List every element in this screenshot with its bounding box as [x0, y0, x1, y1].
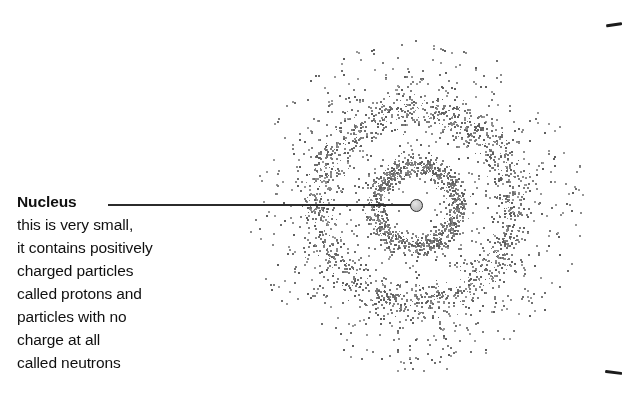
callout-line-5: particles with no	[17, 305, 232, 328]
callout-line-2: it contains positively	[17, 236, 232, 259]
figure-canvas: Nucleus this is very small, it contains …	[0, 0, 622, 403]
callout-line-3: charged particles	[17, 259, 232, 282]
callout-line-1: this is very small,	[17, 213, 232, 236]
nucleus-callout: Nucleus this is very small, it contains …	[17, 190, 232, 374]
callout-line-4: called protons and	[17, 282, 232, 305]
callout-line-7: called neutrons	[17, 351, 232, 374]
callout-title: Nucleus	[17, 190, 232, 213]
nucleus-circle	[410, 199, 423, 212]
callout-line-6: charge at all	[17, 328, 232, 351]
